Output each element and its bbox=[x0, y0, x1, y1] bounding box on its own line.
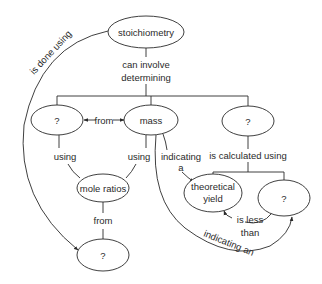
branch-bar bbox=[57, 96, 248, 106]
concept-map: stoichiometry ? mass ? mole ratios theor… bbox=[0, 0, 322, 284]
node-label: mole ratios bbox=[80, 183, 127, 194]
label-using-right: using bbox=[128, 151, 151, 162]
arrow-is-less bbox=[224, 211, 232, 218]
label-indicating: indicating bbox=[161, 151, 201, 162]
label-determining: determining bbox=[121, 72, 171, 83]
label-is-less: is less bbox=[237, 214, 264, 225]
label-indicating-a: a bbox=[178, 162, 184, 173]
label-can-involve: can involve bbox=[122, 59, 170, 70]
node-stoichiometry[interactable]: stoichiometry bbox=[108, 16, 184, 48]
node-mass[interactable]: mass bbox=[124, 105, 178, 135]
node-theoretical-yield[interactable]: theoretical yield bbox=[184, 174, 242, 212]
node-mole-ratios[interactable]: mole ratios bbox=[77, 174, 129, 202]
label-is-calculated-using: is calculated using bbox=[209, 150, 287, 161]
node-left-unknown[interactable]: ? bbox=[31, 105, 83, 135]
node-label: yield bbox=[203, 193, 223, 204]
connector-left-using-bottom bbox=[68, 164, 80, 178]
node-right-unknown[interactable]: ? bbox=[222, 106, 274, 136]
label-using-left: using bbox=[54, 151, 77, 162]
node-label: ? bbox=[54, 115, 59, 126]
label-is-done-using: is done using bbox=[27, 28, 73, 76]
node-label: ? bbox=[100, 250, 105, 261]
node-label: theoretical bbox=[191, 181, 235, 192]
connector-right-using-bottom bbox=[126, 164, 136, 178]
node-bottom-unknown[interactable]: ? bbox=[77, 239, 129, 271]
node-yield-unknown[interactable]: ? bbox=[258, 180, 310, 216]
node-label: ? bbox=[245, 116, 250, 127]
connector-indicating-a-top bbox=[163, 134, 167, 150]
node-label: stoichiometry bbox=[118, 27, 174, 38]
label-than: than bbox=[241, 227, 260, 238]
label-from-mole-ratios: from bbox=[94, 215, 113, 226]
node-label: mass bbox=[140, 115, 163, 126]
node-label: ? bbox=[281, 193, 286, 204]
label-from-mass: from bbox=[95, 115, 114, 126]
